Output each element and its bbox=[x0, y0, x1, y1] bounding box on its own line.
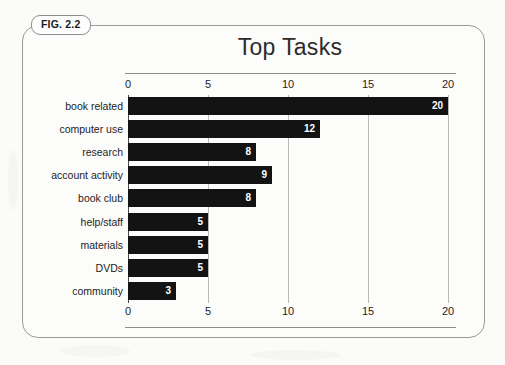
bar: 12 bbox=[128, 120, 320, 138]
x-tick-label-5: 5 bbox=[205, 78, 211, 90]
figure-number-badge: FIG. 2.2 bbox=[31, 15, 91, 35]
x-tick-label-15: 15 bbox=[362, 305, 374, 317]
category-label: help/staff bbox=[20, 217, 123, 228]
bar-value-label: 8 bbox=[245, 193, 251, 203]
gridline-15 bbox=[368, 95, 369, 303]
bar-value-label: 5 bbox=[197, 263, 203, 273]
bar: 5 bbox=[128, 236, 208, 254]
x-axis-bottom-ticks: 05101520 bbox=[125, 305, 456, 319]
category-label: materials bbox=[20, 240, 123, 251]
bar: 9 bbox=[128, 166, 272, 184]
title-divider-rule bbox=[125, 73, 456, 74]
bar-value-label: 9 bbox=[261, 170, 267, 180]
category-label: research bbox=[20, 147, 123, 158]
bar: 8 bbox=[128, 189, 256, 207]
bar-chart: Top Tasks 05101520 book relatedcomputer … bbox=[0, 0, 505, 365]
category-label: account activity bbox=[20, 170, 123, 181]
x-tick-label-20: 20 bbox=[442, 305, 454, 317]
gridline-20 bbox=[448, 95, 449, 303]
bar-value-label: 3 bbox=[165, 286, 171, 296]
bottom-divider-rule bbox=[125, 327, 456, 328]
x-tick-label-10: 10 bbox=[282, 305, 294, 317]
bar: 5 bbox=[128, 213, 208, 231]
bar: 20 bbox=[128, 97, 448, 115]
x-tick-label-0: 0 bbox=[125, 305, 131, 317]
plot-area: 20128985553 bbox=[128, 95, 448, 303]
category-label: book related bbox=[20, 101, 123, 112]
x-tick-label-15: 15 bbox=[362, 78, 374, 90]
bar-value-label: 12 bbox=[304, 124, 315, 134]
bar-value-label: 8 bbox=[245, 147, 251, 157]
y-axis-category-labels: book relatedcomputer useresearchaccount … bbox=[20, 95, 123, 303]
chart-title: Top Tasks bbox=[125, 36, 455, 59]
bar-value-label: 5 bbox=[197, 240, 203, 250]
category-label: DVDs bbox=[20, 263, 123, 274]
x-tick-label-0: 0 bbox=[125, 78, 131, 90]
x-axis-top-ticks: 05101520 bbox=[125, 78, 456, 92]
bar-value-label: 5 bbox=[197, 217, 203, 227]
category-label: computer use bbox=[20, 124, 123, 135]
x-tick-label-10: 10 bbox=[282, 78, 294, 90]
bar: 5 bbox=[128, 259, 208, 277]
category-label: book club bbox=[20, 193, 123, 204]
x-tick-label-20: 20 bbox=[442, 78, 454, 90]
bar: 3 bbox=[128, 282, 176, 300]
bar: 8 bbox=[128, 143, 256, 161]
bar-value-label: 20 bbox=[432, 101, 443, 111]
category-label: community bbox=[20, 286, 123, 297]
x-tick-label-5: 5 bbox=[205, 305, 211, 317]
